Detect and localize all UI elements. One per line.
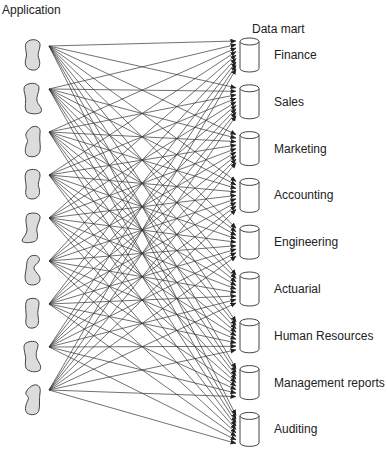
application-blob-icon	[25, 126, 40, 156]
database-cylinder-icon	[240, 85, 259, 119]
application-blob-icon	[25, 40, 40, 70]
database-cylinder-icon	[240, 272, 259, 306]
application-nodes	[22, 40, 41, 415]
data-mart-label: Accounting	[274, 188, 333, 202]
application-blob-icon	[25, 169, 40, 199]
database-cylinder-icon	[240, 319, 259, 353]
data-mart-label: Actuarial	[274, 282, 321, 296]
data-mart-label: Sales	[274, 95, 304, 109]
data-mart-label: Marketing	[274, 142, 327, 156]
connection-arrow	[49, 41, 236, 46]
connection-arrow	[49, 62, 236, 304]
data-mart-label: Engineering	[274, 235, 338, 249]
application-blob-icon	[25, 385, 40, 415]
database-cylinder-icon	[240, 366, 259, 400]
application-blob-icon	[24, 83, 41, 113]
data-mart-label: Management reports	[274, 376, 385, 390]
database-cylinder-icon	[240, 178, 259, 212]
connection-arrow	[49, 55, 236, 218]
data-mart-label: Auditing	[274, 422, 317, 436]
application-blob-icon	[25, 255, 40, 285]
connection-arrow	[49, 390, 236, 397]
application-blob-icon	[22, 213, 40, 243]
data-mart-label: Human Resources	[274, 329, 373, 343]
data-mart-label: Finance	[274, 48, 317, 62]
application-blob-icon	[26, 298, 39, 328]
database-cylinder-icon	[240, 412, 259, 446]
database-cylinder-icon	[240, 225, 259, 259]
application-blob-icon	[24, 341, 41, 371]
connection-arrow	[49, 66, 236, 348]
connection-lines	[49, 41, 236, 443]
database-cylinder-icon	[240, 132, 259, 166]
database-cylinder-icon	[240, 38, 259, 72]
data-mart-nodes	[240, 38, 259, 446]
connection-arrow	[49, 45, 236, 90]
